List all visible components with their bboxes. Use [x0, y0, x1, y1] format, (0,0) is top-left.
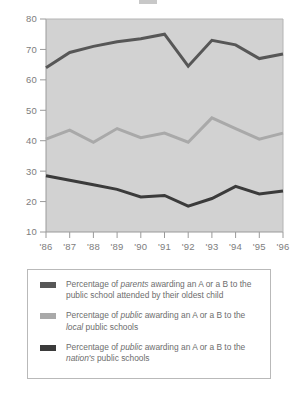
x-tick-label: '89	[111, 241, 124, 252]
legend-item-public-local: Percentage of public awarding an A or a …	[37, 310, 260, 332]
legend-item-public-nation: Percentage of public awarding an A or a …	[37, 342, 260, 364]
chart-canvas: 1020304050607080 '86'87'88'89'90'91'92'9…	[0, 0, 297, 258]
y-tick-label: 60	[26, 74, 37, 85]
x-tick-label: '87	[63, 241, 76, 252]
y-tick-label: 30	[26, 166, 37, 177]
x-tick-label: '86	[40, 241, 53, 252]
x-tick-label: '92	[182, 241, 195, 252]
legend-swatch-public-local	[40, 313, 56, 319]
legend-label-public-local: Percentage of public awarding an A or a …	[66, 310, 260, 332]
x-axis-ticks: '86'87'88'89'90'91'92'93'94'95'96	[40, 232, 290, 252]
y-tick-label: 20	[26, 196, 37, 207]
x-tick-label: '94	[229, 241, 242, 252]
legend-item-parents-oldest-child: Percentage of parents awarding an A or a…	[37, 279, 260, 301]
x-tick-label: '96	[277, 241, 290, 252]
x-tick-label: '91	[158, 241, 171, 252]
y-tick-label: 10	[26, 226, 37, 237]
legend-label-parents: Percentage of parents awarding an A or a…	[66, 279, 260, 301]
x-tick-label: '93	[205, 241, 218, 252]
y-tick-label: 80	[26, 13, 37, 24]
y-tick-label: 50	[26, 105, 37, 116]
legend-label-public-nation: Percentage of public awarding an A or a …	[66, 342, 260, 364]
chart-legend: Percentage of parents awarding an A or a…	[27, 269, 271, 379]
chart-page: 1020304050607080 '86'87'88'89'90'91'92'9…	[0, 0, 297, 395]
x-tick-label: '88	[87, 241, 100, 252]
x-tick-label: '90	[134, 241, 147, 252]
x-tick-label: '95	[253, 241, 266, 252]
legend-swatch-public-nation	[40, 345, 56, 351]
y-tick-label: 40	[26, 135, 37, 146]
y-axis-ticks: 1020304050607080	[26, 13, 46, 237]
line-chart: 1020304050607080 '86'87'88'89'90'91'92'9…	[0, 0, 297, 258]
legend-swatch-parents	[40, 282, 56, 288]
y-tick-label: 70	[26, 44, 37, 55]
